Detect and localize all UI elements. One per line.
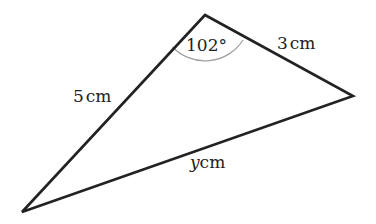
side-value: 5 [73,86,84,106]
side-value: y [190,152,200,172]
triangle-figure [0,0,376,224]
side-unit: cm [290,33,316,53]
angle-label: 102° [186,37,227,54]
angle-value: 102° [186,35,227,55]
side-unit: cm [200,152,226,172]
side-label-bottom: ycm [190,154,225,171]
side-value: 3 [277,33,288,53]
side-label-left: 5cm [73,88,111,105]
triangle-diagram: 102° 3cm 5cm ycm [0,0,376,224]
side-label-top-right: 3cm [277,35,315,52]
side-unit: cm [86,86,112,106]
